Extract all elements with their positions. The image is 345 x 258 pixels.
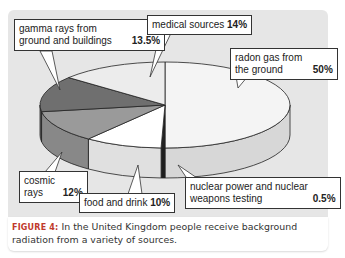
callout-medical-text: medical sources	[152, 19, 224, 30]
caption-label: FIGURE 4:	[12, 223, 58, 232]
callout-medical: medical sources 14%	[147, 15, 252, 35]
callout-nuclear-text: nuclear power and nuclear weapons testin…	[190, 181, 310, 205]
callout-food-text: food and drink	[84, 197, 147, 208]
callout-radon-text: radon gas from the ground	[235, 52, 310, 76]
callout-nuclear-value: 0.5%	[313, 193, 336, 204]
callout-food-value: 10%	[150, 197, 170, 208]
pie-side-1	[161, 148, 165, 178]
figure-caption: FIGURE 4: In the United Kingdom people r…	[8, 217, 328, 251]
callout-nuclear: nuclear power and nuclear weapons testin…	[185, 177, 341, 209]
callout-food: food and drink 10%	[79, 193, 175, 213]
callout-cosmic-text: cosmic rays	[24, 175, 60, 199]
callout-medical-value: 14%	[227, 19, 247, 30]
pointer-gamma	[40, 51, 60, 90]
callout-radon: radon gas from the ground 50%	[230, 48, 338, 80]
callout-gamma-value: 13.5%	[132, 35, 160, 46]
callout-cosmic: cosmic rays 12%	[19, 171, 88, 203]
callout-radon-value: 50%	[313, 64, 333, 75]
callout-gamma-text: gamma rays from ground and buildings	[19, 23, 129, 47]
callout-gamma: gamma rays from ground and buildings 13.…	[14, 19, 165, 51]
